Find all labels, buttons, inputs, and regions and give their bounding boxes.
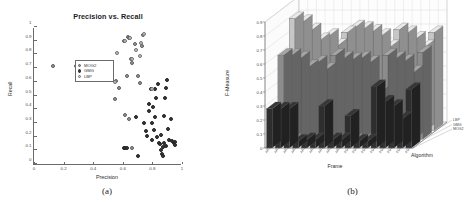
scatter-y-tick-label: 0.5 bbox=[25, 88, 31, 93]
scatter-point-gmg bbox=[153, 115, 157, 119]
scatter-x-tick-mark bbox=[34, 162, 35, 165]
scatter-point-lbp bbox=[123, 39, 127, 43]
bar-y-tick-label: 0.7 bbox=[257, 48, 263, 53]
panel-a-precision-recall: Precision vs. Recall Recall 00.10.20.30.… bbox=[0, 0, 225, 210]
scatter-x-tick-label: 0.4 bbox=[90, 166, 96, 171]
bar-z-axis-label: Algorithm bbox=[411, 152, 433, 158]
scatter-point-gmg bbox=[163, 96, 167, 100]
scatter-y-tick-mark bbox=[34, 95, 37, 96]
scatter-y-tick-label: 0.4 bbox=[25, 102, 31, 107]
scatter-point-gmg bbox=[161, 154, 165, 158]
scatter-point-gmg bbox=[152, 128, 156, 132]
bar-y-tick-label: 0.2 bbox=[257, 118, 263, 123]
scatter-point-mog2 bbox=[117, 86, 121, 90]
scatter-point-gmg bbox=[136, 154, 140, 158]
scatter-y-tick-label: 0.3 bbox=[25, 115, 31, 120]
scatter-point-mog2 bbox=[133, 42, 137, 46]
scatter-point-mog2 bbox=[127, 117, 131, 121]
scatter-x-tick-label: 0.6 bbox=[120, 166, 126, 171]
scatter-point-gmg bbox=[145, 134, 149, 138]
scatter-x-tick-mark bbox=[152, 162, 153, 165]
scatter-point-gmg bbox=[166, 127, 170, 131]
scatter-point-gmg bbox=[150, 138, 154, 142]
scatter-point-gmg bbox=[156, 82, 160, 86]
scatter-point-gmg bbox=[161, 145, 165, 149]
bar-y-tick-label: 0.1 bbox=[257, 132, 263, 137]
bar-z-tick-label-mog2: MOG2 bbox=[453, 127, 464, 131]
scatter-point-lbp bbox=[139, 41, 143, 45]
scatter-point-lbp bbox=[130, 57, 134, 61]
scatter-point-mog2 bbox=[125, 74, 129, 78]
scatter-x-tick-mark bbox=[123, 162, 124, 165]
scatter-point-lbp bbox=[134, 48, 138, 52]
scatter-y-tick-mark bbox=[34, 40, 37, 41]
scatter-y-tick-label: 0.9 bbox=[25, 33, 31, 38]
scatter-point-gmg bbox=[147, 109, 151, 113]
scatter-point-mog2 bbox=[113, 97, 117, 101]
scatter-point-gmg bbox=[154, 96, 158, 100]
bar-y-tick-label: 0.9 bbox=[257, 20, 263, 25]
scatter-y-tick-label: 0 bbox=[29, 157, 31, 162]
scatter-point-mog2 bbox=[130, 61, 134, 65]
bar-y-tick-label: 0.6 bbox=[257, 62, 263, 67]
scatter-point-gmg bbox=[125, 146, 129, 150]
scatter-x-tick-label: 0.2 bbox=[61, 166, 67, 171]
scatter-point-gmg bbox=[147, 102, 151, 106]
scatter-x-tick-label: 0 bbox=[33, 166, 35, 171]
scatter-y-tick-mark bbox=[34, 149, 37, 150]
scatter-point-gmg bbox=[173, 140, 177, 144]
scatter-plot-title: Precision vs. Recall bbox=[33, 12, 183, 21]
scatter-y-tick-mark bbox=[34, 81, 37, 82]
scatter-y-tick-mark bbox=[34, 108, 37, 109]
scatter-point-gmg bbox=[144, 129, 148, 133]
scatter-y-tick-label: 0.1 bbox=[25, 143, 31, 148]
scatter-point-lbp bbox=[128, 36, 132, 40]
legend-label-lbp: LBP bbox=[84, 74, 92, 80]
scatter-point-mog2 bbox=[136, 74, 140, 78]
scatter-point-gmg bbox=[164, 144, 168, 148]
legend-marker-lbp bbox=[78, 75, 81, 78]
scatter-point-gmg bbox=[165, 78, 169, 82]
bar-z-tick-label-gmg: GMG bbox=[453, 123, 462, 127]
scatter-point-gmg bbox=[151, 105, 155, 109]
panel-b-f-measure: F-Measure F-Measure 00.10.20.30.40.50.60… bbox=[225, 0, 463, 210]
scatter-y-tick-label: 0.6 bbox=[25, 74, 31, 79]
scatter-y-tick-label: 0.2 bbox=[25, 129, 31, 134]
scatter-point-mog2 bbox=[130, 146, 134, 150]
scatter-x-tick-label: 0.8 bbox=[149, 166, 155, 171]
scatter-y-tick-mark bbox=[34, 122, 37, 123]
scatter-y-tick-mark bbox=[34, 26, 37, 27]
bar-y-tick-label: 0 bbox=[260, 146, 262, 151]
bar-y-tick-label: 0.3 bbox=[257, 104, 263, 109]
scatter-x-tick-label: 1 bbox=[181, 166, 183, 171]
scatter-x-axis-label: Precision bbox=[33, 174, 181, 180]
bar-y-tick-label: 0.4 bbox=[257, 90, 263, 95]
scatter-point-mog2 bbox=[51, 64, 55, 68]
scatter-plot-area: 00.10.20.30.40.50.60.70.80.91 00.20.40.6… bbox=[33, 28, 181, 165]
scatter-point-lbp bbox=[115, 51, 119, 55]
scatter-point-gmg bbox=[150, 121, 154, 125]
scatter-point-lbp bbox=[138, 54, 142, 58]
scatter-point-gmg bbox=[159, 133, 163, 137]
legend-item-lbp: LBP bbox=[78, 74, 111, 80]
scatter-x-tick-mark bbox=[64, 162, 65, 165]
scatter-x-tick-mark bbox=[182, 162, 183, 165]
scatter-y-tick-label: 1 bbox=[29, 20, 31, 25]
scatter-point-gmg bbox=[134, 115, 138, 119]
legend-marker-gmg bbox=[78, 69, 81, 72]
legend-marker-mog2 bbox=[78, 64, 81, 67]
bar-x-axis-label: Frame bbox=[280, 163, 390, 169]
scatter-point-gmg bbox=[169, 117, 173, 121]
scatter-point-gmg bbox=[164, 86, 168, 90]
bar-y-tick-label: 0.5 bbox=[257, 76, 263, 81]
bar-chart-area: 00.10.20.30.40.50.60.70.80.9 AR1-1AR1-2A… bbox=[225, 0, 463, 186]
scatter-y-axis-label: Recall bbox=[7, 82, 13, 96]
scatter-y-tick-mark bbox=[34, 53, 37, 54]
scatter-point-gmg bbox=[142, 121, 146, 125]
scatter-y-tick-mark bbox=[34, 136, 37, 137]
scatter-y-tick-label: 0.7 bbox=[25, 61, 31, 66]
bar-y-tick-label: 0.8 bbox=[257, 34, 263, 39]
scatter-point-gmg bbox=[162, 114, 166, 118]
scatter-x-tick-mark bbox=[93, 162, 94, 165]
